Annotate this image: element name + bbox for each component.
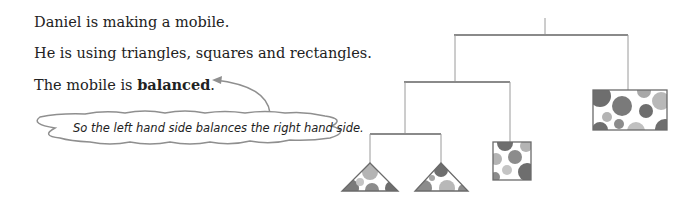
square-shape xyxy=(490,135,536,182)
thought-cloud-text: So the left hand side balances the right… xyxy=(73,121,364,135)
mobile-frame xyxy=(370,18,628,163)
arrow-icon xyxy=(212,76,270,113)
illustration xyxy=(0,0,688,204)
triangle-right xyxy=(415,163,470,196)
rectangle-shape xyxy=(589,84,675,140)
triangle-left xyxy=(341,163,399,197)
